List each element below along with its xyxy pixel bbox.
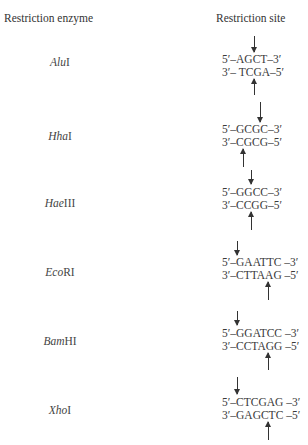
enzyme-suffix: RI bbox=[63, 266, 75, 278]
cut-arrow-down-icon bbox=[254, 36, 255, 52]
cut-arrow-down-icon bbox=[260, 102, 261, 122]
cut-arrow-up-icon bbox=[251, 212, 252, 230]
site-sequence: 5′–CTCGAG –3′3′–GAGCTC –5′ bbox=[222, 396, 300, 422]
enzyme-row-bamhi: BamHI 5′–GGATCC –3′3′–CCTAGG –5′ bbox=[0, 311, 308, 371]
enzyme-name: HhaI bbox=[0, 130, 120, 142]
bottom-strand: 3′–CTTAAG –5′ bbox=[222, 269, 299, 282]
top-strand: 5′–GCGC–3′ bbox=[222, 123, 282, 136]
cut-arrow-up-icon bbox=[254, 79, 255, 95]
enzyme-name: XhoI bbox=[0, 404, 120, 416]
top-strand: 5′–AGCT–3′ bbox=[222, 53, 284, 66]
enzyme-suffix: I bbox=[68, 130, 72, 142]
top-strand: 5′–GGATCC –3′ bbox=[222, 327, 299, 340]
site-sequence: 5′–AGCT–3′3′– TCGA–5′ bbox=[222, 53, 284, 79]
enzyme-genus: Hae bbox=[45, 197, 64, 209]
cut-arrow-up-icon bbox=[268, 353, 269, 370]
cut-arrow-up-icon bbox=[243, 149, 244, 167]
cut-arrow-down-icon bbox=[251, 170, 252, 184]
enzyme-suffix: I bbox=[67, 404, 71, 416]
cut-arrow-up-icon bbox=[268, 422, 269, 440]
enzyme-name: EcoRI bbox=[0, 266, 120, 278]
top-strand: 5′–GGCC–3′ bbox=[222, 186, 282, 199]
enzyme-name: AluI bbox=[0, 56, 120, 68]
cut-arrow-down-icon bbox=[237, 377, 238, 394]
enzyme-suffix: III bbox=[64, 197, 76, 209]
cut-arrow-down-icon bbox=[237, 311, 238, 325]
enzyme-row-haeiii: HaeIII 5′–GGCC–3′3′–CCGG–5′ bbox=[0, 170, 308, 230]
cut-arrow-down-icon bbox=[237, 241, 238, 255]
cut-arrow-up-icon bbox=[268, 282, 269, 300]
header-restriction-site: Restriction site bbox=[216, 12, 285, 24]
enzyme-genus: Xho bbox=[49, 404, 68, 416]
bottom-strand: 3′–CCTAGG –5′ bbox=[222, 340, 299, 353]
enzyme-genus: Hha bbox=[48, 130, 68, 142]
site-sequence: 5′–GGCC–3′3′–CCGG–5′ bbox=[222, 186, 282, 212]
enzyme-name: BamHI bbox=[0, 335, 120, 347]
site-sequence: 5′–GCGC–3′3′–CGCG–5′ bbox=[222, 123, 282, 149]
enzyme-genus: Eco bbox=[45, 266, 63, 278]
enzyme-genus: Bam bbox=[43, 335, 64, 347]
enzyme-row-hhai: HhaI 5′–GCGC–3′3′–CGCG–5′ bbox=[0, 102, 308, 162]
enzyme-suffix: HI bbox=[64, 335, 76, 347]
enzyme-row-ecori: EcoRI 5′–GAATTC –3′3′–CTTAAG –5′ bbox=[0, 241, 308, 301]
enzyme-name: HaeIII bbox=[0, 197, 120, 209]
enzyme-row-xhoi: XhoI 5′–CTCGAG –3′3′–GAGCTC –5′ bbox=[0, 377, 308, 437]
bottom-strand: 3′–GAGCTC –5′ bbox=[222, 409, 300, 422]
header-restriction-enzyme: Restriction enzyme bbox=[4, 12, 93, 24]
site-sequence: 5′–GAATTC –3′3′–CTTAAG –5′ bbox=[222, 256, 299, 282]
top-strand: 5′–CTCGAG –3′ bbox=[222, 396, 300, 409]
enzyme-genus: Alu bbox=[50, 56, 66, 68]
bottom-strand: 3′–CGCG–5′ bbox=[222, 136, 282, 149]
top-strand: 5′–GAATTC –3′ bbox=[222, 256, 299, 269]
site-sequence: 5′–GGATCC –3′3′–CCTAGG –5′ bbox=[222, 327, 299, 353]
enzyme-suffix: I bbox=[66, 56, 70, 68]
enzyme-row-alui: AluI 5′–AGCT–3′3′– TCGA–5′ bbox=[0, 36, 308, 96]
